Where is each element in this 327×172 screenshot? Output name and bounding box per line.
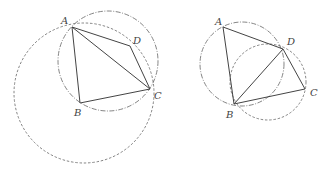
left-figure: ABCD: [14, 11, 162, 163]
point-label-A: A: [214, 16, 222, 27]
point-label-A: A: [60, 15, 68, 26]
point-label-D: D: [132, 35, 141, 46]
point-label-C: C: [154, 90, 162, 101]
right-dash-circle: [230, 44, 306, 120]
point-label-D: D: [286, 36, 295, 47]
segment-BD: [234, 49, 283, 104]
segment-DA: [223, 27, 283, 49]
segment-DA: [72, 27, 130, 46]
segment-BC: [234, 89, 305, 104]
segment-CD: [283, 49, 305, 89]
geometry-diagram: ABCD ABCD: [0, 0, 327, 172]
segment-AB: [223, 27, 234, 104]
point-label-B: B: [73, 107, 81, 118]
segment-AB: [72, 27, 80, 103]
segment-CD: [130, 46, 150, 89]
point-label-C: C: [310, 87, 318, 98]
right-figure: ABCD: [200, 16, 318, 120]
left-dashdot-circle: [58, 11, 158, 111]
segment-BC: [80, 89, 150, 103]
point-label-B: B: [225, 109, 233, 120]
right-dashdot-circle: [200, 22, 284, 106]
